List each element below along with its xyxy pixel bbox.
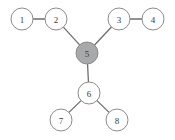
node-label-4: 4 bbox=[151, 15, 156, 25]
node-label-8: 8 bbox=[115, 116, 120, 126]
graph-node-1[interactable]: 1 bbox=[11, 8, 33, 30]
node-label-1: 1 bbox=[20, 15, 25, 25]
graph-node-4[interactable]: 4 bbox=[142, 8, 164, 30]
node-label-3: 3 bbox=[117, 15, 122, 25]
graph-node-6[interactable]: 6 bbox=[78, 82, 100, 104]
graph-edge-3-5 bbox=[95, 27, 112, 45]
graph-diagram: 12345678 bbox=[0, 0, 175, 140]
graph-node-3[interactable]: 3 bbox=[108, 8, 130, 30]
graph-edge-5-6 bbox=[88, 64, 89, 82]
graph-node-8[interactable]: 8 bbox=[106, 109, 128, 131]
node-label-7: 7 bbox=[59, 116, 64, 126]
node-label-2: 2 bbox=[54, 15, 59, 25]
node-label-5: 5 bbox=[85, 49, 90, 59]
node-label-6: 6 bbox=[87, 89, 92, 99]
graph-edge-6-8 bbox=[97, 101, 109, 113]
graph-node-7[interactable]: 7 bbox=[50, 109, 72, 131]
graph-node-2[interactable]: 2 bbox=[45, 8, 67, 30]
graph-edge-2-5 bbox=[63, 27, 79, 45]
graph-edge-6-7 bbox=[69, 101, 81, 113]
graph-node-5[interactable]: 5 bbox=[76, 42, 98, 64]
